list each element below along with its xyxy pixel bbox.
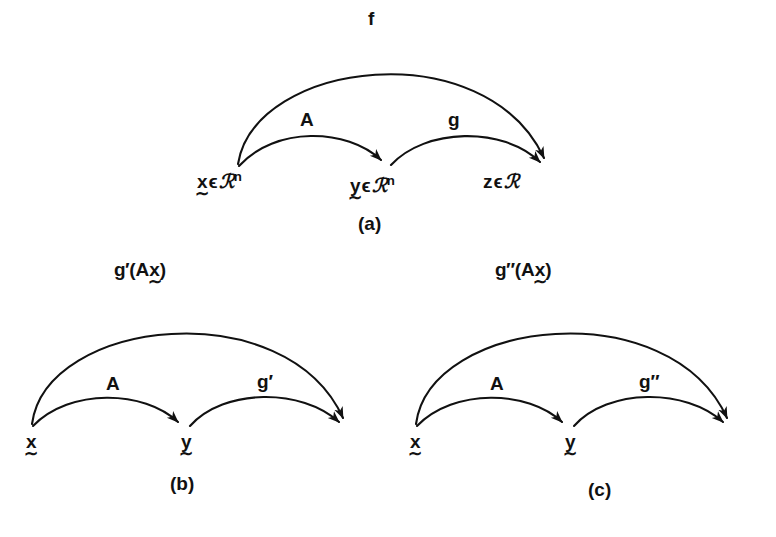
arc-label-composite: g′(Ax∼) bbox=[114, 260, 166, 279]
arc-label-g: g bbox=[448, 110, 460, 129]
vector-x: x∼ bbox=[149, 260, 160, 279]
script-r-symbol: ℛ bbox=[219, 170, 234, 193]
arc-label-g-prime: g′ bbox=[257, 372, 273, 391]
panel-c-caption: (c) bbox=[588, 480, 611, 499]
tilde-accent: ∼ bbox=[179, 445, 193, 462]
arc-A bbox=[417, 398, 562, 426]
superscript-n: n bbox=[387, 173, 395, 188]
panel-b-caption: (b) bbox=[170, 474, 194, 493]
arc-label-f: f bbox=[368, 9, 374, 28]
arc-label-g-double-prime: g″ bbox=[639, 372, 660, 391]
arc-label-A: A bbox=[106, 374, 120, 393]
arc-label-A: A bbox=[300, 110, 314, 129]
script-r-symbol: ℛ bbox=[504, 170, 519, 193]
node-label-x: x∼ϵℛn bbox=[197, 170, 242, 192]
vector-x: x∼ bbox=[535, 260, 546, 279]
open-paren-A: (A bbox=[515, 259, 535, 280]
node-label-x: x∼ bbox=[410, 432, 421, 451]
arc-A bbox=[33, 398, 178, 426]
node-label-z: zϵℛ bbox=[483, 172, 519, 191]
symbol-z: z bbox=[483, 171, 493, 192]
vector-x: x∼ bbox=[26, 432, 37, 451]
tilde-accent: ∼ bbox=[408, 445, 422, 462]
tilde-accent: ∼ bbox=[348, 189, 362, 206]
arc-composite bbox=[416, 334, 727, 424]
tilde-accent: ∼ bbox=[533, 273, 547, 290]
element-of-symbol: ϵ bbox=[493, 171, 504, 192]
arc-f bbox=[238, 74, 544, 164]
vector-y: y∼ bbox=[350, 176, 361, 195]
arc-label-A: A bbox=[490, 374, 504, 393]
tilde-accent: ∼ bbox=[24, 445, 38, 462]
arc-A bbox=[239, 136, 381, 166]
script-r-symbol: ℛ bbox=[372, 174, 387, 197]
tilde-accent: ∼ bbox=[195, 185, 209, 202]
vector-y: y∼ bbox=[565, 432, 576, 451]
panel-a-caption: (a) bbox=[358, 214, 381, 233]
node-label-y: y∼ bbox=[181, 432, 192, 451]
arc-g-double-prime bbox=[574, 397, 723, 426]
figure-canvas: f A g x∼ϵℛn y∼ϵℛn zϵℛ (a) bbox=[0, 0, 776, 537]
arc-label-composite: g″(Ax∼) bbox=[495, 260, 552, 279]
node-label-y: y∼ bbox=[565, 432, 576, 451]
prime-mark: ″ bbox=[506, 259, 515, 280]
function-g: g bbox=[114, 259, 125, 280]
node-label-x: x∼ bbox=[26, 432, 37, 451]
panel-c: g″(Ax∼) A g″ x∼ y∼ (c) bbox=[402, 262, 762, 522]
panel-b: g′(Ax∼) A g′ x∼ y∼ (b) bbox=[18, 262, 378, 522]
panel-c-arcs bbox=[402, 262, 762, 447]
vector-x: x∼ bbox=[410, 432, 421, 451]
tilde-accent: ∼ bbox=[563, 445, 577, 462]
panel-a: f A g x∼ϵℛn y∼ϵℛn zϵℛ (a) bbox=[195, 18, 585, 238]
arc-composite bbox=[32, 334, 343, 424]
function-g: g bbox=[495, 259, 506, 280]
node-label-y: y∼ϵℛn bbox=[350, 174, 395, 196]
open-paren-A: (A bbox=[129, 259, 149, 280]
tilde-accent: ∼ bbox=[148, 273, 162, 290]
panel-b-arcs bbox=[18, 262, 378, 447]
panel-a-arcs bbox=[195, 18, 585, 198]
vector-y: y∼ bbox=[181, 432, 192, 451]
arc-g bbox=[391, 136, 540, 165]
vector-x: x∼ bbox=[197, 172, 208, 191]
superscript-n: n bbox=[234, 169, 242, 184]
arc-g-prime bbox=[190, 397, 339, 426]
